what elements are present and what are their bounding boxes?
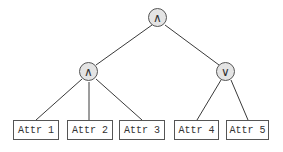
left-and-node: ∧: [79, 62, 98, 81]
edge-root-to-or: [165, 25, 219, 65]
leaf-label: Attr 4: [178, 125, 214, 136]
leaf-label: Attr 3: [124, 125, 160, 136]
edge-or-to-attr4: [197, 80, 221, 120]
leaf-attr-3: Attr 3: [119, 120, 165, 140]
and-operator-icon: ∧: [84, 66, 93, 78]
leaf-attr-2: Attr 2: [67, 120, 113, 140]
right-or-node: ∨: [216, 62, 235, 81]
leaf-label: Attr 2: [72, 125, 108, 136]
leaf-attr-1: Attr 1: [13, 120, 59, 140]
leaf-label: Attr 5: [229, 125, 265, 136]
edge-and-to-attr1: [36, 79, 82, 120]
edge-and-to-attr3: [96, 79, 142, 120]
or-operator-icon: ∨: [221, 66, 230, 78]
root-and-node: ∧: [148, 8, 167, 27]
and-operator-icon: ∧: [153, 12, 162, 24]
leaf-attr-5: Attr 5: [226, 120, 269, 140]
edge-or-to-attr5: [231, 80, 248, 120]
leaf-label: Attr 1: [18, 125, 54, 136]
edge-root-to-and: [96, 25, 152, 65]
leaf-attr-4: Attr 4: [174, 120, 219, 140]
